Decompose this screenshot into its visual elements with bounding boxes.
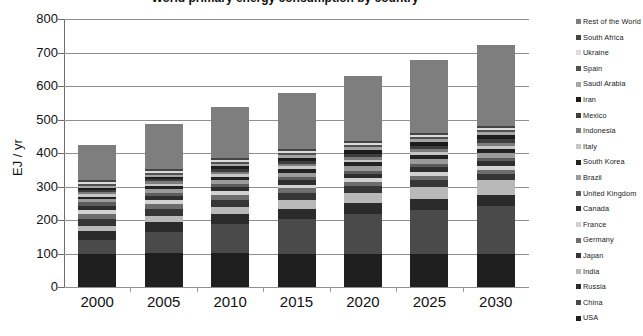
legend-item[interactable]: USA bbox=[576, 310, 643, 326]
legend-label: Germany bbox=[583, 232, 614, 248]
legend-item[interactable]: Mexico bbox=[576, 108, 643, 124]
legend-item[interactable]: Spain bbox=[576, 61, 643, 77]
legend-label: Ukraine bbox=[583, 45, 609, 61]
bar-segment[interactable] bbox=[145, 232, 183, 253]
legend-swatch-icon bbox=[576, 82, 581, 87]
legend-label: Indonesia bbox=[583, 123, 616, 139]
bar-segment[interactable] bbox=[477, 195, 515, 206]
bar-segment[interactable] bbox=[145, 253, 183, 288]
legend-label: Rest of the World bbox=[583, 14, 641, 30]
bar-segment[interactable] bbox=[145, 222, 183, 232]
bar-segment[interactable] bbox=[410, 254, 448, 287]
bar-stack bbox=[278, 93, 316, 287]
bar-segment[interactable] bbox=[278, 219, 316, 254]
bar-segment[interactable] bbox=[211, 253, 249, 287]
bar-segment[interactable] bbox=[78, 231, 116, 240]
legend-label: Spain bbox=[583, 61, 602, 77]
bar-segment[interactable] bbox=[211, 214, 249, 224]
gridline bbox=[64, 287, 529, 288]
legend-label: Saudi Arabia bbox=[583, 76, 626, 92]
bar-segment[interactable] bbox=[78, 145, 116, 181]
bar-segment[interactable] bbox=[211, 224, 249, 253]
legend-label: France bbox=[583, 217, 606, 233]
legend-item[interactable]: United Kingdom bbox=[576, 186, 643, 202]
legend-item[interactable]: Japan bbox=[576, 248, 643, 264]
plot-area bbox=[64, 19, 529, 287]
bar-segment[interactable] bbox=[344, 203, 382, 214]
bar-segment[interactable] bbox=[477, 254, 515, 287]
bar-segment[interactable] bbox=[410, 210, 448, 254]
legend-swatch-icon bbox=[576, 50, 581, 55]
bar-segment[interactable] bbox=[211, 207, 249, 214]
legend-item[interactable]: South Korea bbox=[576, 154, 643, 170]
legend-swatch-icon bbox=[576, 238, 581, 243]
bar-segment[interactable] bbox=[477, 180, 515, 194]
legend-item[interactable]: Ukraine bbox=[576, 45, 643, 61]
legend-label: United Kingdom bbox=[583, 186, 636, 202]
bar-segment[interactable] bbox=[78, 219, 116, 226]
legend-item[interactable]: Rest of the World bbox=[576, 14, 643, 30]
x-tick-label: 2010 bbox=[195, 293, 265, 310]
legend-item[interactable]: Saudi Arabia bbox=[576, 76, 643, 92]
x-tick-label: 2015 bbox=[262, 293, 332, 310]
bar-segment[interactable] bbox=[278, 209, 316, 219]
legend-item[interactable]: China bbox=[576, 295, 643, 311]
legend-item[interactable]: Canada bbox=[576, 201, 643, 217]
legend-swatch-icon bbox=[576, 19, 581, 24]
bar-segment[interactable] bbox=[410, 180, 448, 187]
legend-swatch-icon bbox=[576, 128, 581, 133]
legend-label: Italy bbox=[583, 139, 597, 155]
legend-item[interactable]: Russia bbox=[576, 279, 643, 295]
x-tick-label: 2005 bbox=[129, 293, 199, 310]
y-tick-label: 400 bbox=[12, 145, 58, 160]
legend-item[interactable]: Germany bbox=[576, 232, 643, 248]
bar-segment[interactable] bbox=[278, 193, 316, 200]
gridline bbox=[64, 53, 529, 54]
legend-item[interactable]: South Africa bbox=[576, 30, 643, 46]
bar-segment[interactable] bbox=[211, 200, 249, 207]
bar-segment[interactable] bbox=[344, 186, 382, 193]
bar-segment[interactable] bbox=[344, 214, 382, 254]
y-tick-mark bbox=[58, 220, 64, 221]
legend-item[interactable]: Italy bbox=[576, 139, 643, 155]
bar-segment[interactable] bbox=[78, 254, 116, 288]
legend-item[interactable]: Iran bbox=[576, 92, 643, 108]
y-tick-mark bbox=[58, 19, 64, 20]
y-tick-label: 0 bbox=[12, 279, 58, 294]
bar-segment[interactable] bbox=[278, 200, 316, 209]
bar-segment[interactable] bbox=[211, 107, 249, 158]
bar-segment[interactable] bbox=[344, 254, 382, 288]
y-tick-label: 800 bbox=[12, 11, 58, 26]
bar-segment[interactable] bbox=[344, 193, 382, 203]
legend-label: South Korea bbox=[583, 154, 625, 170]
legend-item[interactable]: India bbox=[576, 264, 643, 280]
y-tick-label: 300 bbox=[12, 179, 58, 194]
bar-segment[interactable] bbox=[477, 206, 515, 254]
x-tick-label: 2020 bbox=[328, 293, 398, 310]
y-tick-label: 500 bbox=[12, 112, 58, 127]
bar-segment[interactable] bbox=[145, 209, 183, 216]
bar-segment[interactable] bbox=[410, 60, 448, 133]
bar-segment[interactable] bbox=[278, 93, 316, 150]
chart-legend: Rest of the WorldSouth AfricaUkraineSpai… bbox=[576, 14, 643, 326]
bar-segment[interactable] bbox=[145, 124, 183, 169]
legend-swatch-icon bbox=[576, 284, 581, 289]
bar-segment[interactable] bbox=[477, 45, 515, 125]
legend-item[interactable]: France bbox=[576, 217, 643, 233]
bar-segment[interactable] bbox=[410, 187, 448, 199]
legend-item[interactable]: Brazil bbox=[576, 170, 643, 186]
legend-swatch-icon bbox=[576, 113, 581, 118]
bar-segment[interactable] bbox=[78, 240, 116, 253]
bar-stack bbox=[78, 145, 116, 287]
legend-item[interactable]: Indonesia bbox=[576, 123, 643, 139]
bar-segment[interactable] bbox=[344, 76, 382, 141]
legend-swatch-icon bbox=[576, 35, 581, 40]
bar-stack bbox=[344, 76, 382, 287]
bar-segment[interactable] bbox=[278, 254, 316, 288]
bar-segment[interactable] bbox=[410, 199, 448, 210]
bar-stack bbox=[410, 60, 448, 287]
bar-stack bbox=[211, 107, 249, 287]
gridline bbox=[64, 86, 529, 87]
legend-label: India bbox=[583, 264, 599, 280]
legend-swatch-icon bbox=[576, 253, 581, 258]
